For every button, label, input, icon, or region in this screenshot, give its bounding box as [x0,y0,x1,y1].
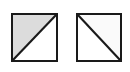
right-square [77,14,121,61]
figure-canvas [0,0,130,72]
left-square [12,14,57,61]
